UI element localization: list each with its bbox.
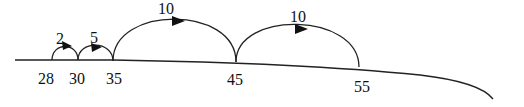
jump-label: 10 [158,0,174,17]
point-label-55: 55 [354,78,370,95]
number-line [15,60,493,99]
point-label-35: 35 [106,70,122,87]
jump-label: 2 [56,30,64,47]
jump-label: 5 [90,29,98,46]
jump-label: 10 [290,8,306,25]
jump-arc-10a: 10 [113,0,236,62]
jump-arc-2: 2 [52,30,78,60]
point-label-30: 30 [69,70,85,87]
number-line-diagram: 2 5 10 10 28 30 35 45 55 [0,0,524,107]
jump-arc-5: 5 [78,29,113,61]
point-label-28: 28 [38,70,54,87]
point-label-45: 45 [227,71,243,88]
arrow-head-icon [172,16,185,26]
jump-arc-10b: 10 [236,8,359,67]
